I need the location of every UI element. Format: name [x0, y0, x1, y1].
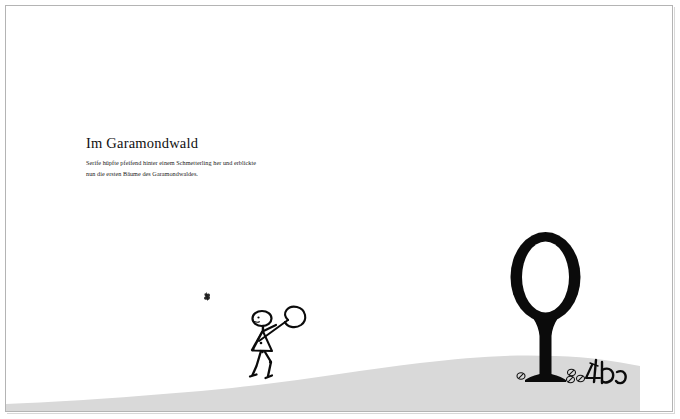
body-line: nun die ersten Bäume des Garamondwaldes.	[86, 169, 346, 180]
book-page: Im Garamondwald Serife hüpfte pfeifend h…	[0, 0, 680, 419]
figure-foot-right	[266, 376, 273, 379]
figure-knee-dot	[269, 360, 272, 363]
figure-leg-right	[265, 352, 271, 376]
stick-figure	[250, 311, 276, 378]
net-hoop	[285, 307, 305, 327]
page-title: Im Garamondwald	[86, 136, 346, 152]
illustration	[0, 0, 680, 419]
figure-head	[253, 311, 272, 326]
body-line: Serife hüpfte pfeifend hinter einem Schm…	[86, 158, 346, 169]
figure-eye	[257, 316, 259, 318]
figure-foot-left	[250, 375, 257, 377]
text-block: Im Garamondwald Serife hüpfte pfeifend h…	[86, 136, 346, 179]
illustration-canvas	[0, 0, 680, 419]
butterfly	[204, 293, 210, 301]
figure-button	[260, 342, 263, 345]
figure-leg-left	[253, 351, 262, 375]
